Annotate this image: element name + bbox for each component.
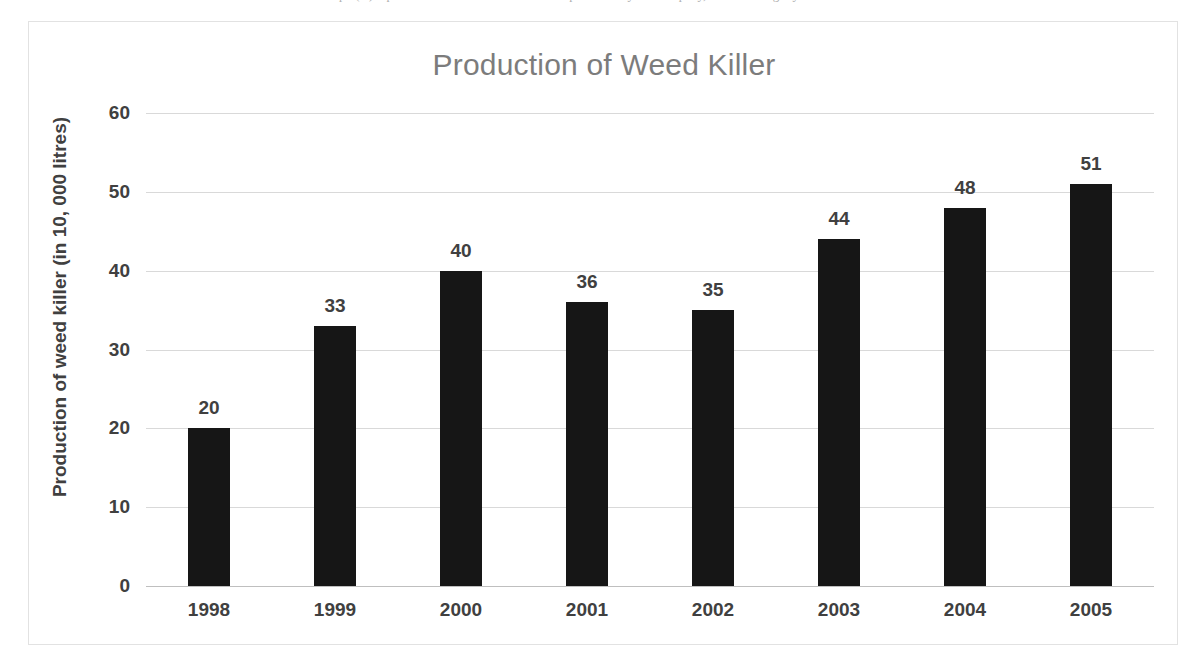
chart-frame: Production of Weed Killer Production of … [28, 21, 1178, 645]
y-tick-label-50: 50 [109, 181, 130, 203]
x-tick-label-2004: 2004 [944, 599, 986, 621]
bar-value-label-2000: 40 [450, 240, 471, 262]
x-tick-label-1999: 1999 [314, 599, 356, 621]
gridline-60: 60 [146, 113, 1154, 114]
gridline-10: 10 [146, 507, 1154, 508]
bar-2001[interactable]: 36 [566, 302, 608, 586]
y-axis-title: Production of weed killer (in 10, 000 li… [49, 67, 71, 547]
clipped-caption-text: Graph (A) represents the amount of weed … [0, 0, 1202, 3]
bar-value-label-2003: 44 [828, 208, 849, 230]
bar-value-label-2002: 35 [702, 279, 723, 301]
x-tick-label-2001: 2001 [566, 599, 608, 621]
bar-2005[interactable]: 51 [1070, 184, 1112, 586]
x-tick-label-2003: 2003 [818, 599, 860, 621]
y-tick-label-40: 40 [109, 260, 130, 282]
x-tick-label-1998: 1998 [188, 599, 230, 621]
bar-1999[interactable]: 33 [314, 326, 356, 586]
y-tick-label-20: 20 [109, 417, 130, 439]
bar-1998[interactable]: 20 [188, 428, 230, 586]
plot-area: 0102030405060 20199833199940200036200135… [146, 113, 1154, 586]
bar-value-label-1999: 33 [324, 295, 345, 317]
bar-2004[interactable]: 48 [944, 208, 986, 586]
gridline-50: 50 [146, 192, 1154, 193]
x-tick-label-2005: 2005 [1070, 599, 1112, 621]
chart-title: Production of Weed Killer [29, 48, 1179, 82]
x-tick-label-2000: 2000 [440, 599, 482, 621]
bar-value-label-2005: 51 [1080, 153, 1101, 175]
gridline-30: 30 [146, 350, 1154, 351]
y-tick-label-10: 10 [109, 496, 130, 518]
y-tick-label-0: 0 [119, 575, 130, 597]
y-tick-label-60: 60 [109, 102, 130, 124]
bar-2000[interactable]: 40 [440, 271, 482, 586]
y-tick-label-30: 30 [109, 339, 130, 361]
x-tick-label-2002: 2002 [692, 599, 734, 621]
gridline-20: 20 [146, 428, 1154, 429]
gridline-0: 0 [146, 586, 1154, 587]
gridline-40: 40 [146, 271, 1154, 272]
bar-2003[interactable]: 44 [818, 239, 860, 586]
bar-value-label-2001: 36 [576, 271, 597, 293]
bar-value-label-1998: 20 [198, 397, 219, 419]
bar-value-label-2004: 48 [954, 177, 975, 199]
bar-2002[interactable]: 35 [692, 310, 734, 586]
